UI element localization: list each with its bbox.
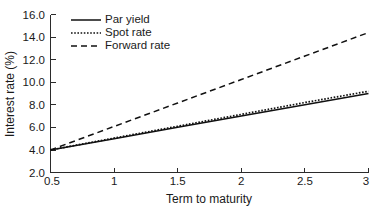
- y-tick-label-2: 2.0: [29, 167, 45, 179]
- x-axis-ticks: 0.5 1 1.5 2 2.5 3: [44, 168, 369, 188]
- x-tick-label-2point5: 2.5: [297, 175, 313, 187]
- x-tick-label-1: 1: [111, 175, 117, 187]
- x-tick-label-1point5: 1.5: [170, 175, 186, 187]
- legend-label-spot-rate: Spot rate: [105, 26, 152, 38]
- legend-label-par-yield: Par yield: [105, 13, 150, 25]
- interest-rate-line-chart: 16.0 14.0 12.0 10.0 8.0 6.0 4.0 2.0 0.5 …: [0, 0, 378, 214]
- y-axis-title: Interest rate (%): [3, 51, 17, 137]
- chart-legend: Par yield Spot rate Forward rate: [71, 13, 170, 51]
- chart-figure: 16.0 14.0 12.0 10.0 8.0 6.0 4.0 2.0 0.5 …: [0, 0, 378, 214]
- x-tick-label-2: 2: [238, 175, 244, 187]
- y-tick-label-12: 12.0: [23, 54, 45, 66]
- x-tick-label-0point5: 0.5: [44, 175, 60, 187]
- y-tick-label-4: 4.0: [29, 144, 45, 156]
- y-tick-label-16: 16.0: [23, 9, 45, 21]
- series-line-forward-rate: [51, 33, 369, 150]
- y-tick-label-14: 14.0: [23, 31, 45, 43]
- y-tick-label-6: 6.0: [29, 121, 45, 133]
- x-axis-title: Term to maturity: [166, 192, 252, 206]
- x-tick-label-3: 3: [363, 175, 369, 187]
- series-line-spot-rate: [51, 91, 369, 150]
- y-tick-label-10: 10.0: [23, 76, 45, 88]
- legend-label-forward-rate: Forward rate: [105, 39, 170, 51]
- y-tick-label-8: 8.0: [29, 99, 45, 111]
